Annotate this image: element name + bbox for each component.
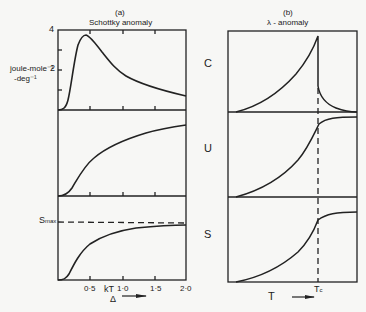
y-unit-line2: -deg⁻¹ (14, 75, 37, 83)
panel-a-title: Schottky anomaly (89, 19, 152, 27)
x-axis-arrow-head (136, 294, 147, 298)
x-label-denominator: Δ (110, 295, 116, 304)
y-tick-4: 4 (49, 25, 54, 34)
panel-a-label: (a) (115, 9, 125, 17)
t-axis-label: T (268, 291, 275, 302)
row-label-s: S (204, 229, 211, 240)
x-tick-0.5: 0·5 (84, 285, 96, 293)
panel-b-title: λ - anomaly (267, 19, 308, 27)
tc-label: Tc (314, 285, 323, 294)
schottky-entropy-curve (58, 225, 186, 280)
lambda-entropy-curve (236, 212, 357, 282)
x-tick-2.0: 2·0 (180, 285, 192, 293)
figure-canvas (0, 0, 366, 312)
panel-b-frame (228, 31, 357, 282)
row-label-u: U (204, 143, 212, 154)
y-tick-2: 2 (50, 64, 55, 73)
lambda-energy-curve (236, 117, 357, 197)
panel-a-frame (58, 30, 186, 280)
schottky-heat-capacity-curve (58, 35, 186, 110)
t-axis-arrow-head (305, 295, 315, 299)
schottky-energy-curve (58, 125, 186, 196)
x-label-numerator: kT (104, 285, 114, 294)
x-tick-1.0: 1·0 (117, 285, 129, 293)
panel-a-x-ticks (90, 30, 155, 280)
lambda-heat-capacity-curve (236, 36, 357, 112)
y-unit-line1: joule-mole⁻¹ (10, 65, 54, 73)
panel-b-label: (b) (283, 9, 293, 17)
x-tick-1.5: 1·5 (150, 285, 162, 293)
smax-dashed-line (58, 222, 186, 223)
row-label-c: C (204, 58, 212, 69)
smax-label: Smax (39, 216, 56, 225)
